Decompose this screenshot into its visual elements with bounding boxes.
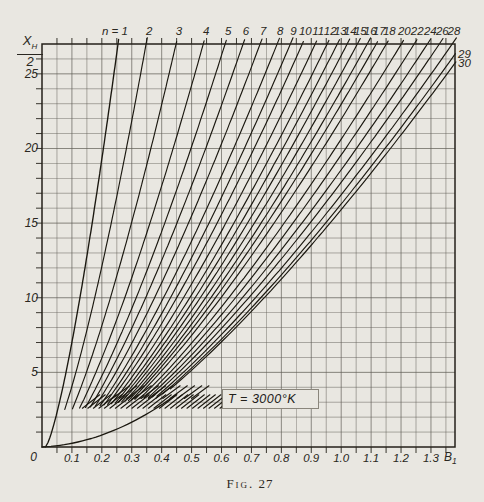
n-label-1: n = 1: [102, 25, 128, 37]
y-tick-label-5: 5: [31, 365, 38, 379]
n-label-11: 11: [312, 25, 324, 37]
x-tick-label-0.1: 0.1: [64, 452, 80, 464]
n-label-20: 20: [397, 25, 411, 37]
x-tick-label-0.3: 0.3: [124, 452, 141, 464]
x-tick-label-0.2: 0.2: [94, 452, 111, 464]
n-label-6: 6: [243, 25, 250, 37]
x-tick-label-1.3: 1.3: [423, 452, 440, 464]
x-axis-unit-sub: 1: [452, 456, 457, 466]
n-label-9: 9: [290, 25, 297, 37]
n-label-3: 3: [176, 25, 183, 37]
x-tick-label-0.6: 0.6: [214, 452, 231, 464]
figure-caption-number: 27: [259, 476, 274, 491]
hatch-stroke: [184, 386, 201, 399]
y-tick-label-15: 15: [25, 216, 39, 230]
curve-n-4: [80, 41, 205, 408]
curve-n-17: [131, 42, 377, 400]
curve-n-26: [153, 39, 444, 397]
n-label-7: 7: [260, 25, 267, 37]
n-label-2: 2: [145, 25, 153, 37]
figure-caption: Fig. 27: [130, 476, 370, 492]
n-label-24: 24: [423, 25, 437, 37]
x-tick-label-0.8: 0.8: [273, 452, 290, 464]
n-label-22: 22: [410, 25, 424, 37]
y-axis-label-numerator: XH: [17, 34, 43, 55]
temperature-annotation: T = 3000°K: [222, 389, 319, 409]
n-label-28: 28: [447, 25, 461, 37]
n-label-4: 4: [203, 25, 209, 37]
y-tick-label-20: 20: [24, 141, 39, 155]
curve-n-5: [86, 40, 227, 407]
x-tick-label-0.7: 0.7: [243, 452, 260, 464]
x-tick-label-0.4: 0.4: [154, 452, 170, 464]
y-axis-label-denominator: 2: [26, 54, 33, 69]
x-tick-label-1.2: 1.2: [393, 452, 410, 464]
origin-label: 0: [30, 450, 37, 464]
curve-n-18: [135, 41, 388, 399]
x-tick-label-1.0: 1.0: [333, 452, 350, 464]
x-axis-unit-label: B1: [444, 450, 457, 466]
y-axis-label: XH 2: [17, 34, 43, 68]
x-tick-label-0.9: 0.9: [303, 452, 320, 464]
x-tick-label-0.5: 0.5: [184, 452, 201, 464]
figure-caption-prefix: Fig.: [226, 476, 254, 491]
plot-frame: [42, 44, 455, 447]
curve-n-12: [115, 40, 329, 403]
y-axis-label-numerator-sub: H: [31, 42, 37, 51]
x-tick-label-1.1: 1.1: [363, 452, 379, 464]
y-tick-label-10: 10: [25, 291, 39, 305]
n-label-30: 30: [458, 57, 471, 69]
n-label-18: 18: [383, 25, 396, 37]
n-label-10: 10: [299, 25, 312, 37]
n-label-8: 8: [277, 25, 284, 37]
y-tick-label-25: 25: [24, 67, 39, 81]
chart-canvas: n = 123456789101112131415161718202224262…: [0, 0, 484, 502]
n-label-5: 5: [225, 25, 232, 37]
